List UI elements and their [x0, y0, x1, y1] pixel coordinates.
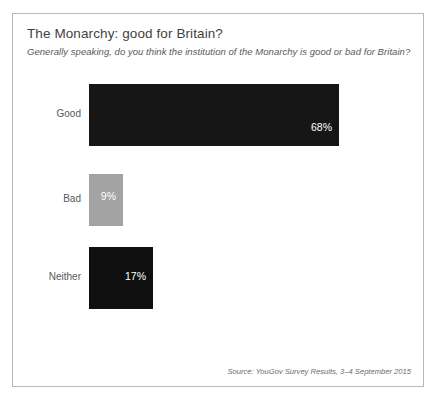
category-label-good: Good [13, 108, 81, 119]
category-label-bad: Bad [13, 193, 81, 204]
chart-title: The Monarchy: good for Britain? [27, 26, 223, 41]
bar-value-bad: 9% [101, 190, 116, 202]
chart-card: The Monarchy: good for Britain? Generall… [12, 13, 424, 387]
bar-row: Bad 9% [13, 174, 423, 226]
bar-row: Neither 17% [13, 247, 423, 309]
bar-bad[interactable]: 9% [89, 174, 123, 226]
bar-good[interactable]: 68% [89, 84, 339, 146]
category-label-neither: Neither [13, 271, 81, 282]
source-note: Source: YouGov Survey Results, 3–4 Septe… [228, 367, 411, 376]
bar-value-neither: 17% [125, 270, 146, 282]
bar-neither[interactable]: 17% [89, 247, 153, 309]
chart-subtitle: Generally speaking, do you think the ins… [27, 46, 410, 57]
bar-row: Good 68% [13, 84, 423, 146]
bar-chart-plot-area: Good 68% Bad 9% Neither 17% [13, 84, 423, 344]
bar-value-good: 68% [311, 121, 332, 133]
